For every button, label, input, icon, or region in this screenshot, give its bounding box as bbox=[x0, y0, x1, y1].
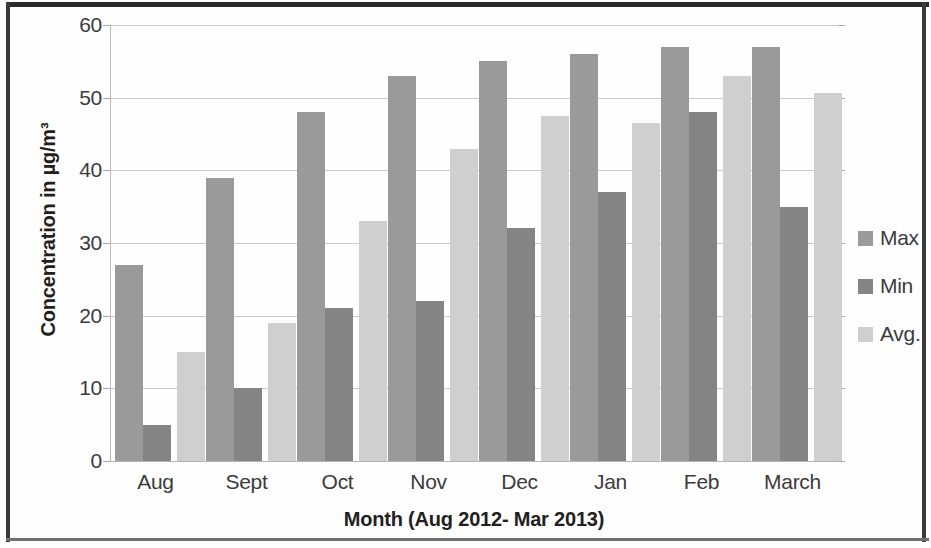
y-axis-tick-labels: 0102030405060 bbox=[50, 14, 102, 466]
bar-group bbox=[747, 25, 838, 461]
legend-item[interactable]: Avg. bbox=[858, 322, 920, 346]
bar-min bbox=[416, 301, 444, 461]
x-axis-tick-label: March bbox=[764, 470, 821, 494]
x-axis-tick-label: Jan bbox=[594, 470, 627, 494]
x-axis-tick-label: Sept bbox=[226, 470, 268, 494]
bars-layer bbox=[110, 25, 838, 461]
bar-min bbox=[325, 308, 353, 461]
bar-min bbox=[689, 112, 717, 461]
legend-swatch-icon bbox=[858, 327, 873, 342]
bar-chart: Concentration in µg/m³ 0102030405060 Aug… bbox=[10, 8, 922, 538]
y-axis-tick-label: 10 bbox=[50, 376, 102, 400]
bar-max bbox=[661, 47, 689, 461]
y-axis-tick-right bbox=[838, 25, 845, 26]
x-axis-tick-label: Oct bbox=[322, 470, 354, 494]
y-axis-tick-label: 40 bbox=[50, 158, 102, 182]
page-border-bottom bbox=[6, 538, 929, 541]
x-axis-title: Month (Aug 2012- Mar 2013) bbox=[110, 508, 838, 531]
bar-group bbox=[656, 25, 747, 461]
plot-area bbox=[110, 25, 838, 461]
bar-group bbox=[474, 25, 565, 461]
x-axis-tick-labels: AugSeptOctNovDecJanFebMarch bbox=[110, 470, 838, 504]
x-axis-tick-label: Dec bbox=[501, 470, 537, 494]
bar-group bbox=[201, 25, 292, 461]
bar-group bbox=[110, 25, 201, 461]
bar-max bbox=[206, 178, 234, 461]
bar-avg bbox=[814, 93, 842, 461]
y-axis-tick-label: 30 bbox=[50, 231, 102, 255]
bar-max bbox=[570, 54, 598, 461]
y-axis-tick-label: 20 bbox=[50, 304, 102, 328]
legend-label: Avg. bbox=[880, 322, 920, 346]
legend-label: Max bbox=[880, 226, 919, 250]
y-axis-tick bbox=[103, 316, 110, 317]
bar-max bbox=[479, 61, 507, 461]
bar-max bbox=[115, 265, 143, 461]
legend-swatch-icon bbox=[858, 231, 873, 246]
page-border-top bbox=[6, 2, 929, 7]
bar-max bbox=[388, 76, 416, 461]
y-axis-tick bbox=[103, 170, 110, 171]
bar-min bbox=[143, 425, 171, 461]
x-axis-tick-label: Feb bbox=[684, 470, 719, 494]
bar-group bbox=[383, 25, 474, 461]
scanned-page-frame: Concentration in µg/m³ 0102030405060 Aug… bbox=[0, 0, 931, 548]
y-axis-tick-label: 0 bbox=[50, 449, 102, 473]
bar-min bbox=[598, 192, 626, 461]
y-axis-tick bbox=[103, 25, 110, 26]
legend-swatch-icon bbox=[858, 279, 873, 294]
y-axis-tick bbox=[103, 388, 110, 389]
bar-min bbox=[234, 388, 262, 461]
bar-max bbox=[297, 112, 325, 461]
bar-group bbox=[292, 25, 383, 461]
bar-min bbox=[780, 207, 808, 461]
bar-max bbox=[752, 47, 780, 461]
bar-group bbox=[565, 25, 656, 461]
y-axis-tick bbox=[103, 98, 110, 99]
legend-label: Min bbox=[880, 274, 913, 298]
legend-item[interactable]: Max bbox=[858, 226, 919, 250]
y-axis-tick-right bbox=[838, 461, 845, 462]
y-axis-tick-label: 60 bbox=[50, 13, 102, 37]
y-axis-tick-label: 50 bbox=[50, 86, 102, 110]
y-axis-tick bbox=[103, 243, 110, 244]
bar-min bbox=[507, 228, 535, 461]
chart-legend: MaxMinAvg. bbox=[858, 226, 922, 354]
gridline bbox=[110, 461, 838, 462]
x-axis-tick-label: Nov bbox=[410, 470, 446, 494]
page-border-right bbox=[922, 2, 926, 542]
x-axis-tick-label: Aug bbox=[137, 470, 173, 494]
y-axis-tick bbox=[103, 461, 110, 462]
legend-item[interactable]: Min bbox=[858, 274, 913, 298]
